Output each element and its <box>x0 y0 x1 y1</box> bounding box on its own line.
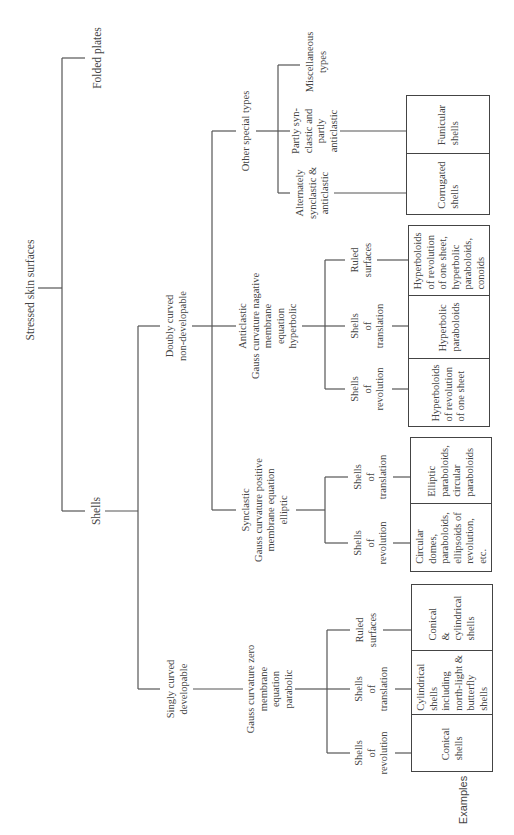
example-hyperbolic-paraboloids: Hyperbolic paraboloids <box>409 296 489 359</box>
example-hyperboloids-revolution: Hyperboloids of revolution of one sheet <box>409 359 489 427</box>
label-gauss-curvature-zero: Gauss curvature zero membrane equation p… <box>245 645 295 734</box>
examples-box-synclastic: Elliptic paraboloids, circular paraboloi… <box>410 437 492 572</box>
root-label-stressed-skin-surfaces: Stressed skin surfaces <box>24 240 37 341</box>
label-doubly-curved: Doubly curved non-developable <box>164 291 189 361</box>
label-anticlastic-ruled-surfaces: Ruled surfaces <box>349 243 374 277</box>
label-anticlastic: Anticlastic Gauss curvature nagative mem… <box>237 273 300 379</box>
label-other-special-types: Other special types <box>240 91 253 171</box>
example-cylindrical-shells: Cylindrical shells including north-light… <box>412 651 492 715</box>
example-hyperboloids-ruled: Hyperboloids of revolution of one sheet,… <box>409 226 489 296</box>
label-folded-plates: Folded plates <box>91 27 104 89</box>
example-circular-domes: Circular domes, paraboloids, ellipsoids … <box>411 504 491 572</box>
label-anticlastic-shells-of-revolution: Shells of revolution <box>349 367 387 410</box>
example-conical-shells: Conical shells <box>412 715 492 772</box>
label-synclastic-shells-of-revolution: Shells of revolution <box>352 521 390 564</box>
label-parabolic-shells-of-translation: Shells of translation <box>353 667 391 711</box>
label-synclastic-shells-of-translation: Shells of translation <box>352 455 390 499</box>
label-synclastic: Synclastic Gauss curvature positive memb… <box>240 458 290 562</box>
label-shells: Shells <box>90 497 103 525</box>
example-funicular-shells: Funicular shells <box>407 96 489 154</box>
label-singly-curved: Singly curved developable <box>165 660 190 719</box>
example-corrugated-shells: Corrugated shells <box>407 154 489 215</box>
label-parabolic-shells-of-revolution: Shells of revolution <box>353 731 391 774</box>
example-elliptic-paraboloids: Elliptic paraboloids, circular paraboloi… <box>411 438 491 504</box>
example-conical-cylindrical-shells: Conical & cylindrical shells <box>412 585 492 651</box>
label-anticlastic-shells-of-translation: Shells of translation <box>349 304 387 348</box>
label-miscellaneous-types: Miscellaneous types <box>304 32 329 93</box>
examples-label: Examples <box>457 776 470 824</box>
examples-box-other-special: Funicular shells Corrugated shells <box>406 95 490 215</box>
examples-box-parabolic: Conical & cylindrical shells Cylindrical… <box>411 584 493 772</box>
examples-box-anticlastic: Hyperboloids of revolution of one sheet,… <box>408 225 490 427</box>
label-parabolic-ruled-surfaces: Ruled surfaces <box>354 613 379 647</box>
label-partly-synclastic: Partly syn- clastic and partly anticlast… <box>290 108 340 154</box>
label-alternately-synclastic: Alternately synclastic & anticlastic <box>294 167 332 219</box>
